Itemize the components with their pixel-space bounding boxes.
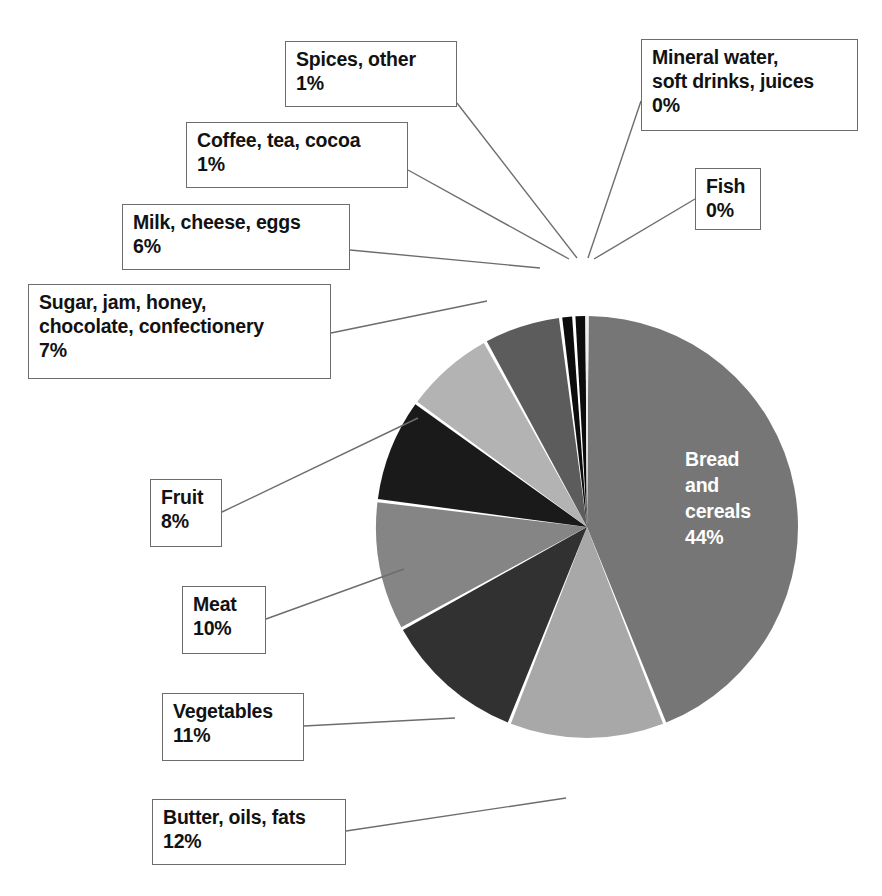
callout-label-coffee-tea-cocoa[interactable]: Coffee, tea, cocoa 1% [186, 122, 408, 188]
callout-label-sugar-jam-honey[interactable]: Sugar, jam, honey, chocolate, confection… [28, 284, 331, 379]
callout-label-fruit[interactable]: Fruit 8% [150, 479, 222, 547]
leader-line-sugar-jam-honey [331, 301, 487, 333]
callout-label-butter-oils-fats[interactable]: Butter, oils, fats 12% [152, 799, 346, 865]
leader-line-vegetables [304, 718, 455, 726]
slice-label-bread-and-cereals: Bread and cereals 44% [685, 447, 751, 551]
leader-line-meat [266, 569, 404, 619]
pie-chart: Spices, other 1%Coffee, tea, cocoa 1%Mil… [0, 0, 882, 896]
leader-line-spices-other [457, 103, 577, 258]
callout-label-mineral-water[interactable]: Mineral water, soft drinks, juices 0% [641, 39, 858, 131]
callout-label-spices-other[interactable]: Spices, other 1% [285, 41, 457, 107]
callout-label-milk-cheese-eggs[interactable]: Milk, cheese, eggs 6% [122, 204, 350, 270]
leader-line-butter-oils-fats [346, 798, 566, 831]
callout-label-meat[interactable]: Meat 10% [182, 586, 266, 654]
callout-label-fish[interactable]: Fish 0% [695, 168, 761, 230]
leader-line-coffee-tea-cocoa [408, 170, 569, 259]
callout-label-vegetables[interactable]: Vegetables 11% [162, 693, 304, 761]
leader-line-fish [594, 199, 695, 259]
leader-line-mineral-water [588, 101, 641, 258]
leader-line-milk-cheese-eggs [350, 250, 540, 268]
